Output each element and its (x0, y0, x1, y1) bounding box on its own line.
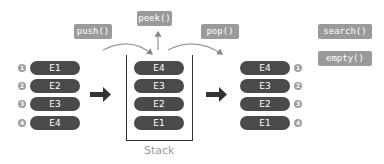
order-badge: 1 (18, 64, 26, 72)
stack-bottom (126, 140, 193, 141)
order-badge: 3 (294, 100, 302, 108)
stack-element: E2 (134, 97, 184, 111)
element-pill: E1 (30, 61, 80, 75)
element-pill: E4 (240, 61, 290, 75)
right-arrow-icon (206, 87, 227, 102)
stack-label: Stack (144, 144, 174, 157)
stack-left-wall (126, 55, 127, 141)
element-pill: E1 (240, 116, 290, 130)
stack-element: E3 (134, 79, 184, 93)
element-pill: E3 (240, 79, 290, 93)
pop-arrow-icon (168, 44, 222, 54)
element-pill: E2 (30, 79, 80, 93)
stack-element: E1 (134, 116, 184, 130)
element-pill: E2 (240, 97, 290, 111)
order-badge: 1 (294, 64, 302, 72)
order-badge: 3 (18, 100, 26, 108)
order-badge: 4 (18, 119, 26, 127)
stack-right-wall (192, 55, 193, 141)
order-badge: 2 (18, 82, 26, 90)
order-badge: 4 (294, 119, 302, 127)
stack-element: E4 (134, 61, 184, 75)
order-badge: 2 (294, 82, 302, 90)
element-pill: E4 (30, 116, 80, 130)
right-arrow-icon (90, 87, 111, 102)
element-pill: E3 (30, 97, 80, 111)
push-arrow-icon (103, 44, 152, 54)
